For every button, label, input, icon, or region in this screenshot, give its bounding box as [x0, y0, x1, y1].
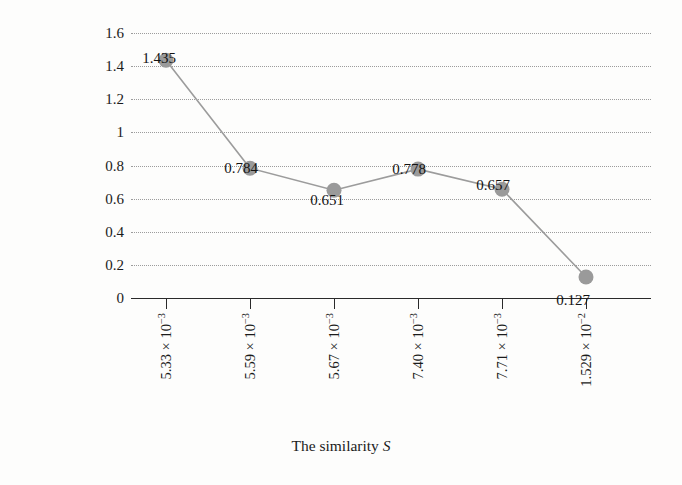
- data-point-marker[interactable]: [579, 270, 594, 285]
- y-tick-label: 1.6: [105, 25, 124, 42]
- x-tick-mantissa: 7.40 × 10: [410, 324, 426, 379]
- data-point-label: 0.784: [224, 160, 258, 177]
- chart-figure: |ΔT| of the time overhead 00.20.40.60.81…: [0, 0, 682, 485]
- x-tick-label: 5.67 × 10−3: [326, 313, 343, 379]
- x-tick-mantissa: 5.67 × 10: [326, 324, 342, 379]
- x-axis-title-text: The similarity: [291, 437, 382, 454]
- y-tick-label: 1.4: [105, 58, 124, 75]
- x-tick-mark: [418, 298, 419, 309]
- x-tick-exponent: −2: [576, 313, 587, 324]
- y-tick-label: 0: [117, 290, 125, 307]
- data-point-label: 0.127: [556, 291, 590, 308]
- data-point-label: 1.435: [142, 50, 176, 67]
- x-tick-mark: [502, 298, 503, 309]
- x-tick-exponent: −3: [492, 313, 503, 324]
- x-tick-mark: [166, 298, 167, 309]
- x-tick-mantissa: 1.529 × 10: [578, 324, 594, 387]
- x-tick-label: 7.71 × 10−3: [494, 313, 511, 379]
- x-tick-exponent: −3: [324, 313, 335, 324]
- x-tick-mantissa: 7.71 × 10: [494, 324, 510, 379]
- y-tick-label: 0.2: [105, 256, 124, 273]
- y-tick-label: 0.4: [105, 223, 124, 240]
- x-axis-title: The similarity S: [0, 437, 682, 455]
- x-tick-label: 1.529 × 10−2: [578, 313, 595, 387]
- x-tick-mark: [334, 298, 335, 309]
- x-tick-exponent: −3: [156, 313, 167, 324]
- x-tick-label: 7.40 × 10−3: [410, 313, 427, 379]
- x-tick-exponent: −3: [408, 313, 419, 324]
- data-point-label: 0.657: [476, 177, 510, 194]
- x-tick-label: 5.33 × 10−3: [158, 313, 175, 379]
- x-tick-mantissa: 5.33 × 10: [158, 324, 174, 379]
- x-tick-exponent: −3: [240, 313, 251, 324]
- y-tick-label: 0.8: [105, 157, 124, 174]
- y-tick-label: 1: [117, 124, 125, 141]
- x-axis-title-variable: S: [383, 437, 391, 454]
- x-tick-mark: [250, 298, 251, 309]
- x-tick-label: 5.59 × 10−3: [242, 313, 259, 379]
- data-series: [131, 33, 651, 298]
- data-point-label: 0.778: [392, 161, 426, 178]
- y-tick-label: 1.2: [105, 91, 124, 108]
- x-tick-mantissa: 5.59 × 10: [242, 324, 258, 379]
- data-point-label: 0.651: [310, 192, 344, 209]
- y-tick-label: 0.6: [105, 190, 124, 207]
